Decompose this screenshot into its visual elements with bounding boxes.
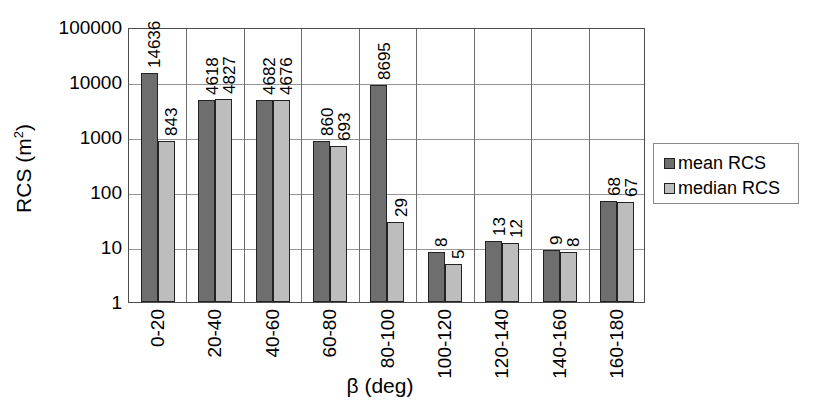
bar-value-label: 693 — [336, 112, 353, 140]
bar-group: 46824676 — [244, 29, 301, 302]
bar-value-label: 4676 — [278, 57, 295, 95]
plot-area: 1463684346184827468246768606938695298513… — [128, 28, 645, 303]
x-tick-label-text: 40-60 — [262, 309, 281, 358]
bar-value-label: 29 — [393, 198, 410, 217]
bar-mean[interactable]: 13 — [485, 241, 502, 302]
bar-value-label: 8 — [565, 238, 582, 247]
bar-median[interactable]: 693 — [330, 146, 347, 302]
legend-swatch-icon — [664, 183, 675, 194]
x-tick-label-text: 0-20 — [147, 309, 166, 347]
bar-pair: 869529 — [359, 29, 416, 302]
bar-mean[interactable]: 14636 — [141, 73, 158, 302]
bar-median[interactable]: 67 — [617, 202, 634, 302]
bar-median[interactable]: 4827 — [215, 99, 232, 302]
bar-pair: 46824676 — [244, 29, 301, 302]
chart-legend: mean RCSmedian RCS — [653, 143, 799, 204]
bar-mean[interactable]: 8 — [428, 252, 445, 302]
bar-mean[interactable]: 4618 — [198, 100, 215, 302]
bar-group: 6867 — [589, 29, 646, 302]
x-tick-label-text: 140-160 — [549, 309, 568, 379]
x-tick-label-text: 120-140 — [492, 309, 511, 379]
y-tick-label: 100 — [30, 183, 122, 202]
bar-median[interactable]: 5 — [445, 264, 462, 302]
y-axis-title-superscript: 2 — [11, 131, 26, 138]
legend-label: median RCS — [678, 179, 780, 197]
bar-value-label: 9 — [548, 235, 565, 244]
bar-pair: 860693 — [301, 29, 358, 302]
bar-group: 98 — [531, 29, 588, 302]
bar-mean[interactable]: 4682 — [256, 100, 273, 302]
bar-median[interactable]: 29 — [387, 222, 404, 302]
bar-value-label: 5 — [450, 249, 467, 258]
y-tick-label: 10 — [30, 238, 122, 257]
bar-value-label: 67 — [623, 178, 640, 197]
x-tick-label-text: 160-180 — [607, 309, 626, 379]
bar-value-label: 4682 — [261, 57, 278, 95]
legend-swatch-icon — [664, 158, 675, 169]
bar-value-label: 14636 — [146, 21, 163, 68]
y-tick-label: 10000 — [30, 73, 122, 92]
x-tick-label-text: 80-100 — [377, 309, 396, 368]
x-tick-label-text: 60-80 — [320, 309, 339, 358]
bar-group: 85 — [416, 29, 473, 302]
bar-pair: 14636843 — [129, 29, 186, 302]
x-tick-label-text: 20-40 — [205, 309, 224, 358]
bar-group: 1312 — [474, 29, 531, 302]
bar-pair: 1312 — [474, 29, 531, 302]
bar-median[interactable]: 8 — [560, 252, 577, 302]
bar-group: 860693 — [301, 29, 358, 302]
bar-pair: 6867 — [589, 29, 646, 302]
y-tick-label: 1 — [30, 293, 122, 312]
bar-group: 14636843 — [129, 29, 186, 302]
bar-median[interactable]: 843 — [158, 141, 175, 302]
legend-item[interactable]: median RCS — [664, 177, 798, 199]
x-axis-title: β (deg) — [290, 374, 470, 398]
bar-value-label: 4827 — [221, 57, 238, 95]
bar-group: 869529 — [359, 29, 416, 302]
legend-item[interactable]: mean RCS — [664, 152, 798, 174]
chart-figure: RCS (m2) 100000100001000100101 146368434… — [0, 0, 839, 417]
bar-value-label: 68 — [606, 177, 623, 196]
bar-median[interactable]: 12 — [502, 243, 519, 302]
bar-group: 46184827 — [186, 29, 243, 302]
bar-value-label: 12 — [508, 219, 525, 238]
bar-value-label: 8 — [433, 238, 450, 247]
x-tick-label-text: 100-120 — [434, 309, 453, 379]
bar-value-label: 843 — [163, 108, 180, 136]
legend-label: mean RCS — [678, 154, 766, 172]
bar-value-label: 13 — [491, 217, 508, 236]
bar-pair: 98 — [531, 29, 588, 302]
bar-median[interactable]: 4676 — [273, 100, 290, 302]
bar-mean[interactable]: 68 — [600, 201, 617, 302]
bar-value-label: 8695 — [376, 43, 393, 81]
bar-mean[interactable]: 860 — [313, 141, 330, 302]
bar-value-label: 860 — [319, 107, 336, 135]
bar-pair: 85 — [416, 29, 473, 302]
y-tick-label: 1000 — [30, 128, 122, 147]
y-tick-label: 100000 — [30, 18, 122, 37]
bar-value-label: 4618 — [204, 58, 221, 96]
bar-mean[interactable]: 9 — [543, 250, 560, 302]
bar-mean[interactable]: 8695 — [370, 85, 387, 302]
bar-pair: 46184827 — [186, 29, 243, 302]
y-axis-ticks: 100000100001000100101 — [28, 0, 122, 417]
